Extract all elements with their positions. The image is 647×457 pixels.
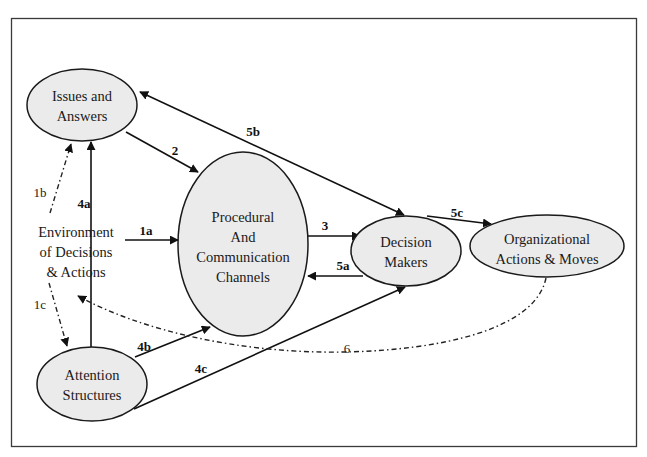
node-label: Communication: [196, 249, 290, 265]
edge-label-3: 3: [322, 218, 329, 233]
edge-label-5c: 5c: [451, 205, 464, 220]
edge-label-1b: 1b: [34, 185, 47, 200]
edge-label-5b: 5b: [246, 124, 260, 139]
node-label: & Actions: [46, 264, 106, 280]
node-attention-structures: Attention Structures: [37, 347, 147, 421]
node-label: Organizational: [504, 231, 590, 247]
node-label: Channels: [216, 269, 270, 285]
node-label: Environment: [38, 224, 114, 240]
node-label: Structures: [63, 387, 122, 403]
node-issues-and-answers: Issues and Answers: [27, 69, 137, 141]
node-label: Makers: [384, 254, 428, 270]
node-label: Attention: [65, 367, 121, 383]
node-label: Actions & Moves: [495, 251, 598, 267]
node-label: Procedural: [212, 209, 275, 225]
node-environment: Environment of Decisions & Actions: [38, 224, 114, 280]
node-label: Answers: [57, 108, 108, 124]
node-procedural-channels: Procedural And Communication Channels: [178, 152, 308, 336]
edge-label-5a: 5a: [337, 258, 351, 273]
edge-label-1a: 1a: [140, 223, 154, 238]
edge-label-2: 2: [172, 143, 179, 158]
node-decision-makers: Decision Makers: [351, 216, 461, 286]
node-label: Issues and: [52, 88, 113, 104]
decision-process-diagram: Issues and Answers Procedural And Commun…: [0, 0, 647, 457]
node-organizational-actions: Organizational Actions & Moves: [470, 215, 624, 277]
edge-label-4b: 4b: [137, 339, 151, 354]
node-label: Decision: [380, 234, 432, 250]
edge-label-4c: 4c: [195, 361, 208, 376]
edge-1c: [49, 283, 67, 346]
edge-2: [126, 132, 198, 172]
edge-label-1c: 1c: [34, 297, 47, 312]
node-label: And: [231, 229, 257, 245]
edge-label-4a: 4a: [78, 196, 92, 211]
edge-label-6: 6: [344, 341, 351, 356]
edge-1b: [50, 144, 71, 213]
node-label: of Decisions: [40, 244, 113, 260]
